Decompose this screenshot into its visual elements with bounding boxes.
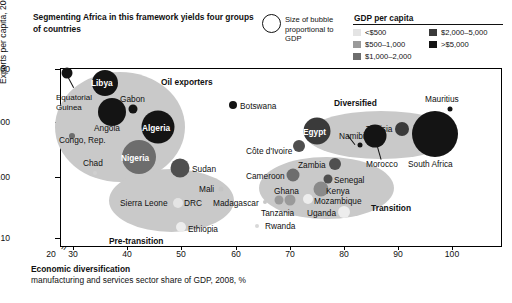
legend-item: >$5,000	[429, 39, 487, 50]
legend-swatch	[429, 29, 437, 36]
y-tick: 100	[0, 172, 10, 182]
label-south-africa: South Africa	[408, 159, 453, 169]
bubble-drc[interactable]	[173, 198, 183, 208]
cluster-label-oil-exporters: Oil exporters	[161, 77, 213, 87]
cluster-label-transition: Transition	[371, 203, 411, 213]
label-libya: Libya	[91, 78, 113, 88]
legend-bubble-note: Size of bubble proportional to GDP	[285, 15, 347, 44]
x-tick: 40	[122, 249, 132, 259]
legend-label: $2,000–5,000	[441, 28, 487, 37]
bubble-uganda[interactable]	[338, 206, 350, 218]
label-tanzania: Tanzania	[261, 208, 294, 218]
x-axis-label-secondary: manufacturing and services sector share …	[31, 275, 246, 285]
label-chad: Chad	[83, 158, 103, 168]
bubble-ethiopia[interactable]	[176, 222, 186, 232]
bubble-equatorial-guinea[interactable]	[62, 68, 73, 79]
bubble-zambia[interactable]	[329, 158, 341, 170]
cluster-label-diversified: Diversified	[334, 98, 377, 108]
label-madagascar: Madagascar	[213, 198, 259, 208]
label-congo-rep: Congo, Rep.	[59, 135, 106, 145]
legend-swatch	[353, 41, 361, 48]
bubble-gabon[interactable]	[129, 105, 138, 114]
label-gabon: Gabon	[120, 94, 145, 104]
x-tick: 80	[339, 249, 349, 259]
x-tick: 70	[285, 249, 295, 259]
legend-divider	[353, 24, 503, 25]
bubble-botswana[interactable]	[229, 101, 237, 109]
y-tick: 1000	[0, 117, 10, 127]
y-tick: 10	[0, 233, 10, 243]
bubble-cote-divoire[interactable]	[293, 140, 305, 152]
label-egypt: Egypt	[303, 127, 326, 137]
page-title: Segmenting Africa in this framework yiel…	[33, 12, 263, 35]
label-drc: DRC	[184, 198, 202, 208]
legend-label: >$5,000	[441, 40, 469, 49]
bubble-rwanda[interactable]	[255, 224, 259, 228]
cluster-label-pre-transition: Pre-transition	[109, 236, 163, 246]
label-nigeria: Nigeria	[121, 153, 149, 163]
label-sierra-leone: Sierra Leone	[120, 198, 168, 208]
legend-swatch	[429, 41, 437, 48]
legend-label: $500–1,000	[365, 40, 405, 49]
bubble-cameroon[interactable]	[287, 169, 300, 182]
label-kenya: Kenya	[326, 186, 350, 196]
legend-label: <$500	[365, 28, 386, 37]
bubble-morocco[interactable]	[364, 125, 387, 148]
bubble-madagascar[interactable]	[263, 200, 267, 204]
label-botswana: Botswana	[240, 101, 276, 111]
label-ethiopia: Ethiopia	[188, 224, 218, 234]
label-zambia: Zambia	[298, 160, 326, 170]
label-sudan: Sudan	[192, 164, 216, 174]
label-cote-divoire: Côte d'Ivoire	[246, 146, 292, 156]
legend-title: GDP per capita	[354, 13, 413, 23]
x-tick: 90	[393, 249, 403, 259]
label-morocco: Morocco	[366, 159, 398, 169]
bubble-south-africa[interactable]	[412, 111, 458, 157]
label-senegal: Senegal	[334, 175, 364, 185]
legend-label: $1,000–2,000	[365, 52, 411, 61]
label-angola: Angola	[94, 123, 120, 133]
bubble-chad[interactable]	[93, 171, 97, 175]
x-tick: 100	[445, 249, 459, 259]
bubble-tanzania[interactable]	[275, 196, 284, 205]
legend-item: <$500	[353, 27, 411, 38]
bubble-angola[interactable]	[98, 98, 126, 126]
bubble-tunisia[interactable]	[395, 122, 409, 136]
x-tick: 20	[46, 249, 56, 259]
label-mauritius: Mauritius	[425, 94, 459, 104]
x-tick: 60	[231, 249, 241, 259]
label-rwanda: Rwanda	[265, 221, 295, 231]
label-uganda: Uganda	[307, 208, 336, 218]
label-mozambique: Mozambique	[314, 196, 362, 206]
x-axis-label-primary: Economic diversification	[31, 264, 130, 274]
x-tick: 30	[68, 249, 78, 259]
bubble-sudan[interactable]	[171, 159, 190, 178]
label-algeria: Algeria	[142, 123, 170, 133]
x-tick: 50	[176, 249, 186, 259]
bubble-mozambique[interactable]	[303, 194, 313, 204]
legend-swatch	[353, 53, 361, 60]
label-mali: Mali	[199, 184, 214, 194]
bubble-ghana[interactable]	[285, 195, 296, 206]
legend-item: $1,000–2,000	[353, 51, 411, 62]
label-cameroon: Cameroon	[246, 171, 285, 181]
y-tick: 10000	[0, 64, 10, 74]
bubble-mali[interactable]	[219, 187, 224, 192]
bubble-mauritius[interactable]	[448, 107, 453, 112]
legend-bubble-icon	[262, 14, 281, 33]
label-ghana: Ghana	[274, 186, 299, 196]
plot-area: Oil exporters Pre-transition Diversified…	[60, 68, 502, 247]
legend-item: $2,000–5,000	[429, 27, 487, 38]
legend-swatch	[353, 29, 361, 36]
legend-item: $500–1,000	[353, 39, 411, 50]
bubble-namibia[interactable]	[358, 143, 363, 148]
